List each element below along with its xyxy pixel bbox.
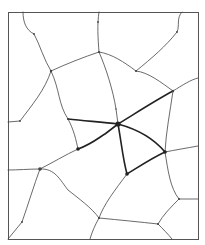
edge (8, 169, 40, 239)
node-G (98, 51, 100, 53)
node-B (125, 172, 129, 176)
edge (99, 174, 127, 218)
edge (165, 152, 179, 199)
node-S (104, 133, 105, 134)
edge (173, 78, 198, 91)
edge (99, 52, 118, 124)
node-K (157, 223, 159, 225)
edge (136, 71, 173, 91)
edge (165, 91, 173, 152)
node-M (33, 33, 35, 35)
diagram-frame (9, 13, 199, 240)
node-H (135, 70, 137, 72)
diagram-svg (0, 0, 205, 245)
edge (23, 12, 51, 71)
node-J (98, 217, 100, 219)
node-R (115, 108, 116, 109)
edge (99, 218, 158, 224)
highlighted-edge (118, 91, 173, 124)
node-D (172, 90, 174, 92)
edge (51, 71, 68, 119)
node-Q (21, 221, 23, 223)
edge (98, 12, 99, 52)
highlighted-edge (68, 119, 118, 124)
highlighted-edge (118, 124, 127, 174)
nodes-layer (19, 21, 180, 225)
edge (40, 169, 99, 218)
edge (158, 199, 179, 224)
edges-layer (8, 12, 198, 239)
highlighted-edge (127, 152, 165, 174)
highlighted-edge (78, 124, 118, 149)
node-P (19, 120, 21, 122)
node-O (176, 31, 178, 33)
edge (8, 169, 40, 170)
node-C (163, 150, 167, 154)
edge (51, 52, 99, 71)
highlighted-edge (118, 124, 165, 152)
edge (99, 52, 136, 71)
node-E (67, 118, 69, 120)
edge (8, 71, 51, 122)
edge (90, 218, 99, 239)
edge (136, 12, 182, 71)
edge (68, 119, 78, 149)
node-F (50, 70, 52, 72)
node-L (178, 198, 180, 200)
network-diagram (0, 0, 205, 245)
edge (165, 146, 198, 152)
node-N (97, 21, 99, 23)
edge (40, 149, 78, 169)
node-A (76, 147, 80, 151)
node-hub (115, 121, 120, 126)
edge (158, 224, 172, 239)
node-I (38, 167, 42, 171)
